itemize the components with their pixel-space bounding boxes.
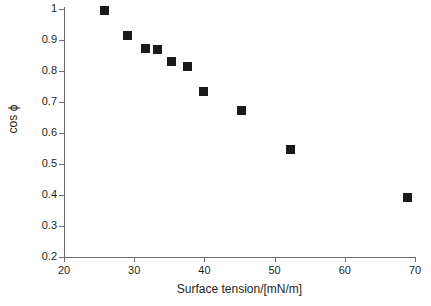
y-tick-label-0.2: 0.2 [3, 250, 57, 263]
data-point [286, 145, 295, 154]
y-tick-label-1: 1 [3, 2, 57, 15]
x-tick-label-50: 50 [255, 264, 295, 277]
y-tick-0.6 [59, 133, 64, 134]
y-tick-label-0.8: 0.8 [3, 64, 57, 77]
data-point [141, 44, 150, 53]
data-point [100, 6, 109, 15]
x-tick-20 [64, 257, 65, 262]
data-point [237, 106, 246, 115]
data-point [403, 193, 412, 202]
y-axis-title: cos ϕ [6, 84, 20, 154]
data-point [183, 62, 192, 71]
data-point [123, 31, 132, 40]
x-tick-label-40: 40 [184, 264, 224, 277]
y-tick-0.3 [59, 226, 64, 227]
y-tick-label-0.4: 0.4 [3, 188, 57, 201]
y-tick-label-0.3: 0.3 [3, 219, 57, 232]
x-tick-label-20: 20 [44, 264, 84, 277]
x-tick-30 [134, 257, 135, 262]
x-axis-title: Surface tension/[mN/m] [64, 282, 415, 296]
y-tick-0.2 [59, 257, 64, 258]
x-tick-70 [415, 257, 416, 262]
data-point [153, 45, 162, 54]
y-tick-1 [59, 9, 64, 10]
y-tick-0.7 [59, 102, 64, 103]
x-tick-label-70: 70 [395, 264, 431, 277]
x-tick-60 [345, 257, 346, 262]
data-point [167, 57, 176, 66]
y-tick-0.9 [59, 40, 64, 41]
data-point [199, 87, 208, 96]
y-tick-0.8 [59, 71, 64, 72]
y-axis-line [64, 7, 65, 258]
y-tick-0.4 [59, 195, 64, 196]
y-tick-label-0.9: 0.9 [3, 33, 57, 46]
x-tick-40 [204, 257, 205, 262]
x-tick-50 [275, 257, 276, 262]
x-axis-line [64, 257, 415, 258]
y-tick-label-0.5: 0.5 [3, 157, 57, 170]
y-tick-0.5 [59, 164, 64, 165]
scatter-chart: 203040506070 0.20.30.40.50.60.70.80.91 S… [0, 0, 431, 306]
x-tick-label-30: 30 [114, 264, 154, 277]
x-tick-label-60: 60 [325, 264, 365, 277]
